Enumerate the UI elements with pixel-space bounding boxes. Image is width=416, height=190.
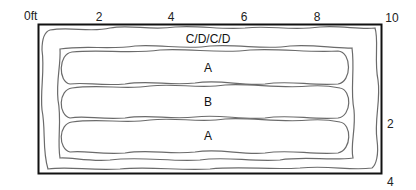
zone-label-top: A <box>204 62 212 74</box>
x-tick-8: 8 <box>314 11 321 23</box>
x-tick-4: 4 <box>168 11 175 23</box>
zone-label-bottom: A <box>204 130 212 142</box>
x-axis-origin-label: 0ft <box>24 10 37 22</box>
x-tick-10: 10 <box>385 12 398 24</box>
x-tick-2: 2 <box>96 11 103 23</box>
y-tick-4: 4 <box>387 176 394 188</box>
zone-label-outer: C/D/C/D <box>186 33 231 45</box>
plan-diagram: 0ft 2 4 6 8 10 2 4 C/D/C/D A B A <box>0 0 416 190</box>
x-tick-6: 6 <box>241 11 248 23</box>
zone-label-middle: B <box>204 96 212 108</box>
y-tick-2: 2 <box>387 118 394 130</box>
